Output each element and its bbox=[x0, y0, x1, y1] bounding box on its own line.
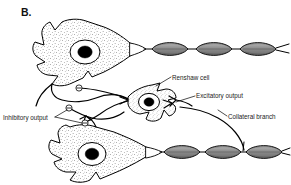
label-inhibitory-output: Inhibitory output bbox=[3, 114, 48, 122]
myelin-segment-bottom-1 bbox=[164, 146, 200, 159]
leader-inhibitory-output-upper bbox=[55, 110, 67, 117]
synapse-inhibitory-1 bbox=[76, 85, 82, 91]
nucleolus-bottom bbox=[85, 148, 99, 160]
myelin-segment-bottom-2 bbox=[205, 146, 241, 159]
leader-excitatory-output bbox=[176, 96, 195, 102]
axon-terminal-bottom-b bbox=[282, 153, 290, 155]
leader-collateral-branch bbox=[218, 110, 227, 116]
fiber-loop-lower bbox=[69, 108, 124, 119]
axon-hillock-top bbox=[130, 43, 146, 56]
myelin-segment-top-3 bbox=[240, 43, 276, 56]
figure-container: B. bbox=[0, 0, 291, 185]
panel-letter: B. bbox=[21, 6, 32, 18]
myelin-segment-top-1 bbox=[152, 43, 188, 56]
myelin-segment-bottom-3 bbox=[246, 146, 282, 159]
label-renshaw-cell: Renshaw cell bbox=[172, 74, 209, 81]
label-excitatory-output: Excitatory output bbox=[196, 92, 243, 100]
synapse-inhibitory-3 bbox=[82, 120, 88, 126]
dendrite-top-descending bbox=[36, 84, 52, 106]
motor-neuron-top bbox=[33, 19, 289, 102]
axon-terminal-top-b bbox=[276, 50, 289, 53]
renshaw-circuit-diagram: B. bbox=[0, 0, 291, 185]
renshaw-cell bbox=[79, 83, 192, 123]
axon-hillock-bottom bbox=[146, 147, 162, 158]
myelin-segment-top-2 bbox=[196, 43, 232, 56]
leader-inhibitory-output-lower bbox=[55, 117, 82, 123]
axon-terminal-bottom-a bbox=[282, 148, 290, 151]
leader-renshaw-cell bbox=[156, 77, 171, 86]
axon-terminal-top-a bbox=[276, 44, 289, 48]
nucleolus-renshaw bbox=[144, 98, 154, 106]
nucleolus-top bbox=[78, 46, 92, 58]
label-collateral-branch: Collateral branch bbox=[228, 113, 276, 120]
collateral-top bbox=[51, 84, 130, 102]
